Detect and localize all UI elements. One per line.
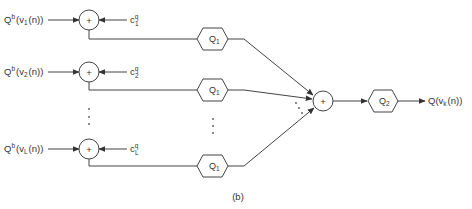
input-label-2: Qb(v2(n)) [4, 65, 43, 78]
input-row-L: Qb(vL(n)) + cqL Q1 [4, 108, 314, 177]
output-stage: + Q2 Q(vk(n)) [313, 90, 462, 112]
final-adder-symbol: + [320, 96, 326, 107]
ellipsis-middle [212, 118, 214, 134]
coef-label-L: cqL [130, 142, 139, 156]
adder-2-symbol: + [86, 67, 92, 78]
figure-caption: (b) [232, 191, 244, 202]
input-row-1: Qb(v1(n)) + cq1 Q1 [4, 10, 313, 95]
input-row-2: Qb(v2(n)) + cq2 Q1 [4, 62, 312, 101]
q1-2-to-sum-arrow [228, 90, 312, 99]
ellipsis-left [88, 108, 90, 125]
q1-L-to-sum-arrow [228, 108, 314, 166]
adder-1-symbol: + [86, 15, 92, 26]
q1-1-to-sum-arrow [228, 39, 313, 95]
input-label-1: Qb(v1(n)) [4, 13, 43, 26]
adder-L-output-line [89, 159, 197, 166]
input-label-L: Qb(vL(n)) [4, 142, 43, 155]
quantizer-diagram: Qb(v1(n)) + cq1 Q1 Qb(v2(n)) + cq2 Q1 [0, 0, 472, 209]
adder-1-output-line [89, 30, 197, 39]
output-label: Q(vk(n)) [428, 95, 462, 107]
ellipsis-sum [295, 102, 303, 114]
adder-2-output-line [89, 82, 197, 90]
adder-L-symbol: + [86, 144, 92, 155]
coef-label-1: cq1 [130, 13, 139, 27]
coef-label-2: cq2 [130, 65, 139, 79]
